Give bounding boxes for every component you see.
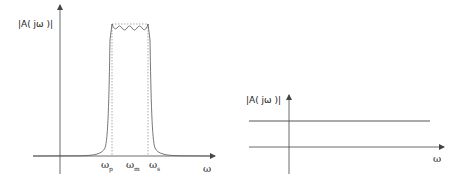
ideal-bandpass-outline — [112, 24, 148, 156]
right-plot: |A( jω )| ω — [246, 95, 444, 174]
right-y-axis-label: |A( jω )| — [246, 95, 281, 105]
tick-label-omega-s: ω s — [149, 159, 160, 172]
tick-label-omega-p: ω p — [101, 159, 113, 173]
svg-text:ω: ω — [126, 159, 134, 170]
tick-label-omega-m: ω m — [126, 159, 140, 172]
svg-text:s: s — [157, 165, 160, 172]
svg-text:m: m — [134, 165, 140, 172]
svg-text:p: p — [109, 165, 113, 173]
svg-text:ω: ω — [101, 159, 109, 170]
left-y-axis-label: |A( jω )| — [18, 19, 53, 29]
left-plot: |A( jω )| ω ω p ω m ω s — [18, 5, 215, 174]
right-x-axis-label: ω — [433, 153, 441, 164]
svg-text:ω: ω — [149, 159, 157, 170]
left-x-axis-label: ω — [203, 163, 211, 174]
diagram-canvas: |A( jω )| ω ω p ω m ω s |A( jω )| ω — [0, 0, 459, 185]
